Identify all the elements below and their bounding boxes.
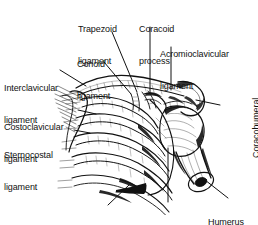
label-capsule: Capsule	[151, 207, 183, 225]
label-acromioclavicular-ligament: Acromioclavicular ligament	[160, 28, 229, 112]
label-sternocostal-ligament: Sternocostal ligament	[4, 129, 53, 213]
label-trapezoid-line1: Trapezoid	[78, 24, 117, 35]
label-scapula: Scapula	[87, 207, 119, 225]
label-acromioclavicular-line1: Acromioclavicular	[160, 49, 229, 60]
anatomical-figure: Trapezoid ligament Coracoid process Cono…	[0, 0, 258, 225]
label-acromioclavicular-line2: ligament	[160, 81, 229, 92]
label-conoid-line1: Conoid	[77, 59, 110, 70]
label-interclavicular-line1: Interclavicular	[4, 83, 58, 94]
label-humerus-line1: Humerus	[208, 217, 244, 225]
label-conoid-ligament: Conoid ligament	[77, 38, 110, 122]
label-coracohumeral-line1: Coracohumeral	[251, 98, 258, 158]
label-sternocostal-line2: ligament	[4, 182, 53, 193]
label-conoid-line2: ligament	[77, 91, 110, 102]
label-coracohumeral-ligament: Coracohumeral ligament	[230, 98, 258, 158]
label-sternocostal-line1: Sternocostal	[4, 150, 53, 161]
label-humerus: Humerus	[208, 196, 244, 225]
